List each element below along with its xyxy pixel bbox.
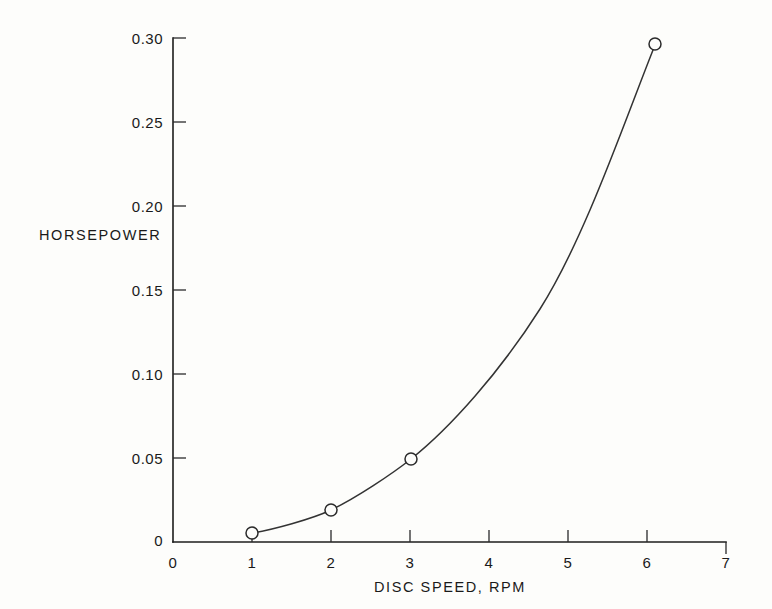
y-tick-label: 0.30	[132, 30, 163, 47]
data-point-marker	[246, 527, 258, 539]
x-tick-label: 5	[564, 554, 573, 571]
horsepower-vs-disc-speed-chart: 0.30 0.25 0.20 0.15 0.10 0.05 0 HORSEPOW…	[0, 0, 772, 609]
x-axis-title: DISC SPEED, RPM	[374, 579, 526, 595]
data-series-group	[246, 38, 661, 539]
x-tick-label: 4	[485, 554, 494, 571]
x-tick-label: 2	[327, 554, 336, 571]
x-tick-label: 3	[406, 554, 415, 571]
y-axis-title: HORSEPOWER	[39, 227, 161, 243]
data-curve	[252, 45, 655, 533]
y-tick-label: 0.05	[132, 450, 163, 467]
y-tick-label: 0.20	[132, 198, 163, 215]
x-tick-label: 7	[722, 554, 731, 571]
x-axis-group: 0 1 2 3 4 5 6 7 DISC SPEED, RPM	[169, 530, 731, 595]
y-axis-group: 0.30 0.25 0.20 0.15 0.10 0.05 0 HORSEPOW…	[39, 30, 186, 549]
chart-figure: 0.30 0.25 0.20 0.15 0.10 0.05 0 HORSEPOW…	[0, 0, 772, 609]
x-tick-label: 6	[643, 554, 652, 571]
data-point-marker	[649, 38, 661, 50]
y-tick-label: 0.10	[132, 366, 163, 383]
data-point-marker	[405, 453, 417, 465]
y-tick-label: 0.15	[132, 282, 163, 299]
x-tick-label: 1	[248, 554, 257, 571]
y-tick-label: 0	[154, 532, 163, 549]
y-tick-label: 0.25	[132, 114, 163, 131]
data-point-marker	[325, 504, 337, 516]
x-tick-label: 0	[169, 554, 178, 571]
